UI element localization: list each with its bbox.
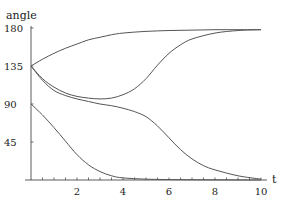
series-curve-1 [31,30,261,66]
x-axis-label: t [272,173,277,186]
line-chart: 2468104590135180 angle t [0,0,286,205]
x-tick-label: 6 [166,186,172,197]
x-tick-label: 2 [74,186,80,197]
axis-ticks [31,28,261,180]
x-tick-label: 4 [120,186,126,197]
x-tick-label: 8 [212,186,218,197]
data-series [31,30,261,180]
series-curve-3 [31,66,261,179]
y-tick-label: 45 [4,137,17,148]
tick-labels: 2468104590135180 [4,23,267,197]
y-tick-label: 180 [4,23,23,34]
y-tick-label: 135 [4,61,23,72]
x-tick-label: 10 [255,186,268,197]
y-tick-label: 90 [4,99,17,110]
series-curve-4 [31,104,261,180]
series-curve-2 [31,30,261,99]
y-axis-label: angle [6,9,37,22]
axes [25,26,267,180]
